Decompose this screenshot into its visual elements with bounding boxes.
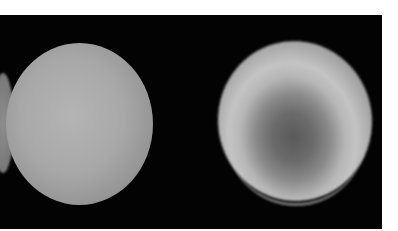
- right-sphere-rim-highlight: [226, 133, 366, 206]
- image-panel: [0, 15, 382, 229]
- left-sphere: [6, 43, 153, 205]
